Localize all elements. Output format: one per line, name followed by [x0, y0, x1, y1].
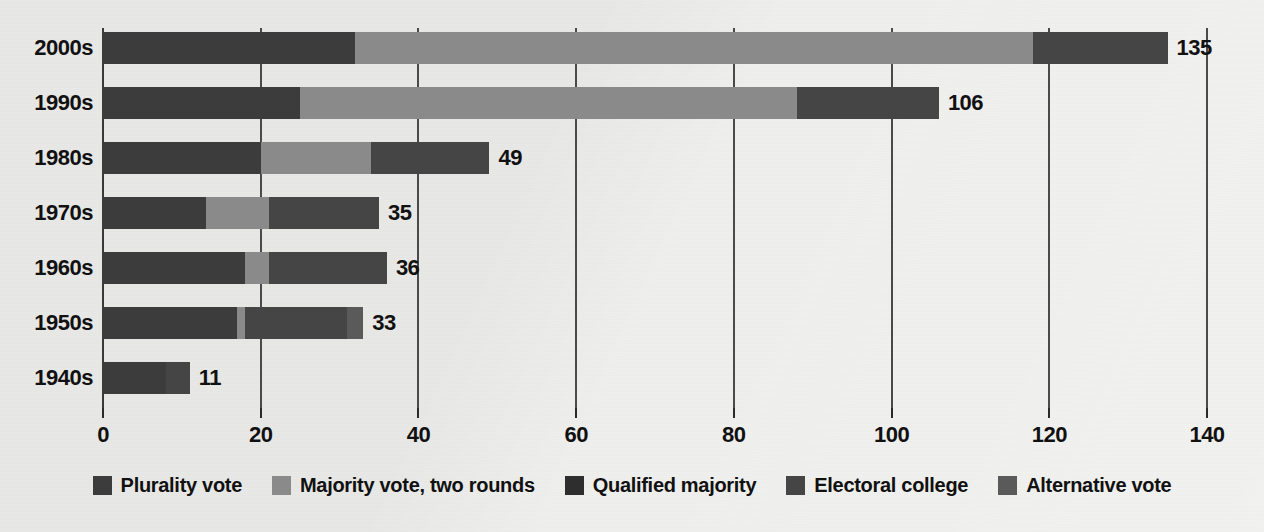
bar-segment-plurality-vote[interactable] [103, 362, 166, 394]
bar-1990s[interactable] [103, 87, 939, 119]
bar-segment-majority-vote-two-rounds[interactable] [261, 142, 371, 174]
bar-1940s[interactable] [103, 362, 190, 394]
x-tick-100 [891, 408, 893, 418]
gridline-40 [417, 28, 419, 408]
x-tick-60 [575, 408, 577, 418]
gridline-120 [1048, 28, 1050, 408]
legend-swatch-icon [786, 476, 805, 495]
bar-1980s[interactable] [103, 142, 489, 174]
bar-segment-plurality-vote[interactable] [103, 307, 237, 339]
bar-2000s[interactable] [103, 32, 1168, 64]
bar-segment-electoral-college[interactable] [269, 252, 387, 284]
y-axis-label-1940s: 1940s [3, 362, 93, 394]
bar-segment-electoral-college[interactable] [245, 307, 348, 339]
bar-1970s[interactable] [103, 197, 379, 229]
bar-value-label-1940s: 11 [199, 362, 221, 394]
legend-item-qualified-majority[interactable]: Qualified majority [565, 474, 757, 497]
bar-segment-electoral-college[interactable] [166, 362, 190, 394]
legend-swatch-icon [272, 476, 291, 495]
bar-value-label-1950s: 33 [372, 307, 395, 339]
bar-segment-majority-vote-two-rounds[interactable] [355, 32, 1033, 64]
x-tick-0 [102, 408, 104, 418]
gridline-140 [1206, 28, 1208, 408]
bar-segment-electoral-college[interactable] [269, 197, 379, 229]
x-tick-label-20: 20 [249, 422, 272, 448]
x-tick-80 [733, 408, 735, 418]
legend-item-alternative-vote[interactable]: Alternative vote [998, 474, 1171, 497]
y-axis-label-1970s: 1970s [3, 197, 93, 229]
y-axis-label-1980s: 1980s [3, 142, 93, 174]
gridline-80 [733, 28, 735, 408]
x-tick-label-0: 0 [97, 422, 109, 448]
bar-segment-majority-vote-two-rounds[interactable] [206, 197, 269, 229]
legend-label: Electoral college [814, 474, 968, 497]
y-axis-label-1960s: 1960s [3, 252, 93, 284]
legend-swatch-icon [565, 476, 584, 495]
chart-legend: Plurality voteMajority vote, two roundsQ… [0, 474, 1264, 497]
bar-value-label-1970s: 35 [388, 197, 411, 229]
bar-segment-electoral-college[interactable] [371, 142, 489, 174]
gridline-60 [575, 28, 577, 408]
bar-value-label-1980s: 49 [498, 142, 521, 174]
bar-segment-plurality-vote[interactable] [103, 252, 245, 284]
x-tick-label-140: 140 [1189, 422, 1224, 448]
legend-swatch-icon [998, 476, 1017, 495]
bar-1960s[interactable] [103, 252, 387, 284]
legend-label: Qualified majority [593, 474, 757, 497]
x-tick-label-120: 120 [1032, 422, 1067, 448]
x-tick-label-60: 60 [564, 422, 587, 448]
y-axis-label-1990s: 1990s [3, 87, 93, 119]
x-tick-140 [1206, 408, 1208, 418]
bar-value-label-2000s: 135 [1177, 32, 1212, 64]
x-tick-120 [1048, 408, 1050, 418]
x-tick-20 [260, 408, 262, 418]
bar-segment-plurality-vote[interactable] [103, 197, 206, 229]
legend-label: Alternative vote [1026, 474, 1171, 497]
legend-item-majority-vote-two-rounds[interactable]: Majority vote, two rounds [272, 474, 535, 497]
bar-1950s[interactable] [103, 307, 363, 339]
plot-area: 2000s1351990s1061980s491970s351960s36195… [103, 28, 1207, 408]
bar-value-label-1990s: 106 [948, 87, 983, 119]
x-tick-label-100: 100 [874, 422, 909, 448]
legend-label: Majority vote, two rounds [300, 474, 535, 497]
legend-item-electoral-college[interactable]: Electoral college [786, 474, 968, 497]
legend-swatch-icon [93, 476, 112, 495]
bar-segment-electoral-college[interactable] [1033, 32, 1167, 64]
legend-item-plurality-vote[interactable]: Plurality vote [93, 474, 242, 497]
bar-segment-majority-vote-two-rounds[interactable] [245, 252, 269, 284]
bar-segment-plurality-vote[interactable] [103, 87, 300, 119]
bar-segment-majority-vote-two-rounds[interactable] [300, 87, 797, 119]
bar-segment-plurality-vote[interactable] [103, 32, 355, 64]
x-tick-label-80: 80 [722, 422, 745, 448]
bar-segment-alternative-vote[interactable] [347, 307, 363, 339]
x-tick-40 [417, 408, 419, 418]
stacked-bar-chart: 2000s1351990s1061980s491970s351960s36195… [0, 0, 1264, 532]
bar-segment-majority-vote-two-rounds[interactable] [237, 307, 245, 339]
bar-segment-plurality-vote[interactable] [103, 142, 261, 174]
y-axis-label-1950s: 1950s [3, 307, 93, 339]
y-axis-label-2000s: 2000s [3, 32, 93, 64]
gridline-100 [891, 28, 893, 408]
bar-value-label-1960s: 36 [396, 252, 419, 284]
x-tick-label-40: 40 [407, 422, 430, 448]
legend-label: Plurality vote [121, 474, 242, 497]
bar-segment-electoral-college[interactable] [797, 87, 939, 119]
x-axis: 020406080100120140 [103, 408, 1207, 410]
